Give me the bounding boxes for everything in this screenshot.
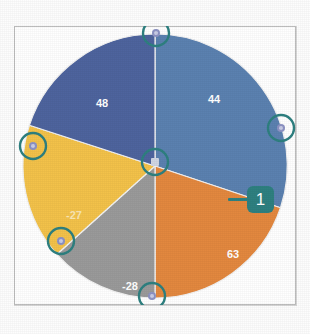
data-label-63: 63 bbox=[227, 248, 239, 260]
pie-slices-geometry[interactable] bbox=[23, 34, 287, 298]
data-label-48: 48 bbox=[96, 97, 108, 109]
data-label--28: -28 bbox=[122, 280, 138, 292]
data-label--27: -27 bbox=[66, 209, 82, 221]
callout-leader-line bbox=[228, 198, 249, 201]
chart-canvas: 44 63 -28 -27 48 bbox=[0, 0, 310, 334]
pie-chart-svg[interactable]: 44 63 -28 -27 48 bbox=[14, 26, 296, 305]
pie-chart[interactable]: 44 63 -28 -27 48 bbox=[14, 26, 296, 305]
callout-badge-1[interactable]: 1 bbox=[247, 186, 274, 213]
data-label-44: 44 bbox=[208, 93, 221, 105]
